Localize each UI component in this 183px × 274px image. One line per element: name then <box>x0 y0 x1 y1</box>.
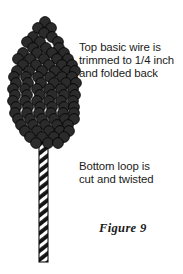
figure-caption: Figure 9 <box>99 221 183 236</box>
callout-top-wire-note: Top basic wire is trimmed to 1/4 inch an… <box>79 41 183 81</box>
bead <box>53 138 64 149</box>
bead <box>31 138 42 149</box>
figure-page: Top basic wire is trimmed to 1/4 inch an… <box>0 0 183 274</box>
bead <box>43 138 54 149</box>
callout-bottom-loop-note: Bottom loop is cut and twisted <box>79 160 183 186</box>
bead-cluster <box>8 17 82 149</box>
twisted-wire-stem <box>39 140 48 262</box>
